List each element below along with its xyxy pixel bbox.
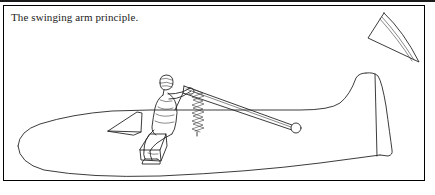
fuselage bbox=[18, 73, 380, 176]
wing-root-fairing bbox=[108, 112, 142, 135]
tail-fin bbox=[366, 73, 392, 156]
rudder-hinge-line bbox=[375, 74, 377, 156]
figure-root: The swinging arm principle. bbox=[0, 0, 435, 195]
pilot bbox=[142, 75, 194, 164]
pivot-point bbox=[291, 123, 301, 133]
detached-wing-panel-icon bbox=[368, 13, 419, 62]
return-spring bbox=[192, 89, 204, 136]
swinging-arm bbox=[175, 86, 292, 130]
line-drawing bbox=[0, 0, 435, 195]
